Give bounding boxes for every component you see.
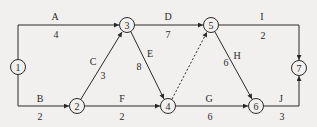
- duration-A: 4: [54, 29, 59, 40]
- label-I: I: [260, 11, 263, 22]
- edge-A: [18, 25, 119, 59]
- node-2-label: 2: [75, 101, 80, 112]
- label-G: G: [205, 93, 212, 104]
- edge-I: [219, 25, 299, 60]
- label-E: E: [147, 48, 153, 59]
- duration-B: 2: [38, 111, 43, 122]
- node-1-label: 1: [16, 62, 21, 73]
- label-J: J: [279, 93, 283, 104]
- node-3-label: 3: [125, 20, 130, 31]
- node-6: 6: [249, 99, 264, 114]
- node-7: 7: [292, 61, 307, 76]
- node-4-label: 4: [166, 101, 171, 112]
- duration-J: 3: [280, 111, 285, 122]
- label-H: H: [233, 50, 240, 61]
- duration-F: 2: [120, 111, 125, 122]
- label-C: C: [90, 56, 97, 67]
- duration-H: 6: [224, 57, 229, 68]
- label-B: B: [37, 93, 44, 104]
- network-diagram: A 4 B 2 C 3 D 7 E 8 F 2 G 6 H 6 I 2 J 3 …: [0, 0, 317, 127]
- node-1: 1: [11, 60, 26, 75]
- label-F: F: [119, 93, 125, 104]
- label-D: D: [164, 11, 171, 22]
- node-5-label: 5: [209, 20, 214, 31]
- duration-E: 8: [137, 61, 142, 72]
- node-3: 3: [120, 18, 135, 33]
- label-A: A: [51, 11, 59, 22]
- duration-G: 6: [208, 111, 213, 122]
- node-4: 4: [161, 99, 176, 114]
- duration-D: 7: [166, 29, 171, 40]
- node-7-label: 7: [297, 63, 302, 74]
- edge-B: [18, 75, 69, 106]
- node-5: 5: [204, 18, 219, 33]
- node-6-label: 6: [254, 101, 259, 112]
- edge-C: [81, 32, 122, 99]
- duration-I: 2: [261, 30, 266, 41]
- node-2: 2: [70, 99, 85, 114]
- edge-dummy: [172, 32, 207, 99]
- edge-H: [215, 32, 252, 99]
- duration-C: 3: [101, 70, 106, 81]
